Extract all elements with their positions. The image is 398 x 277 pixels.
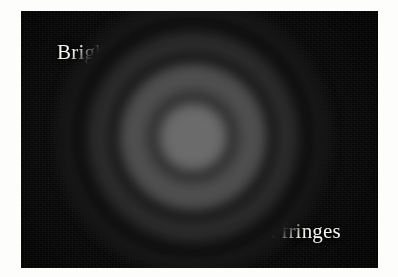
interference-pattern-photo: Bright fringesDark fringes <box>21 11 378 268</box>
figure-root: Bright fringesDark fringes <box>0 0 398 277</box>
fringe-ring <box>155 99 231 175</box>
